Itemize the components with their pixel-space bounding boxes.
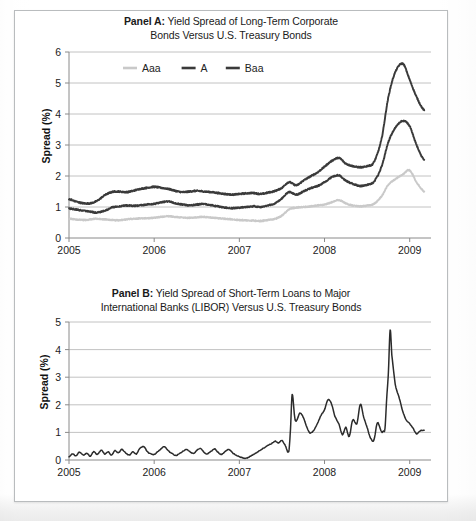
panel-a-title-line2: Bonds Versus U.S. Treasury Bonds <box>150 29 311 41</box>
svg-text:2006: 2006 <box>142 466 166 478</box>
svg-text:2: 2 <box>55 399 61 411</box>
panel-b-title-line2: International Banks (LIBOR) Versus U.S. … <box>101 301 362 313</box>
panel-a-title: Panel A: Yield Spread of Long-Term Corpo… <box>15 15 447 42</box>
panel-a-ylabel: Spread (%) <box>40 101 52 171</box>
svg-text:4: 4 <box>55 108 61 120</box>
panel-b-title: Panel B: Yield Spread of Short-Term Loan… <box>15 287 447 314</box>
panel-a-chart-svg: 012345620052006200720082009AaaABaa <box>15 42 447 264</box>
svg-text:2007: 2007 <box>228 466 252 478</box>
svg-text:0: 0 <box>55 454 61 466</box>
svg-text:1: 1 <box>55 426 61 438</box>
svg-text:0: 0 <box>55 232 61 244</box>
panel-a-plot-area: Spread (%) 012345620052006200720082009Aa… <box>15 42 447 264</box>
figure-root: Panel A: Yield Spread of Long-Term Corpo… <box>0 0 476 521</box>
panel-a: Panel A: Yield Spread of Long-Term Corpo… <box>15 15 447 283</box>
svg-text:4: 4 <box>55 344 61 356</box>
panel-b: Panel B: Yield Spread of Short-Term Loan… <box>15 287 447 497</box>
svg-text:3: 3 <box>55 371 61 383</box>
svg-text:5: 5 <box>55 77 61 89</box>
panel-b-title-lead: Panel B: <box>112 287 153 299</box>
svg-text:2008: 2008 <box>313 244 337 256</box>
svg-text:1: 1 <box>55 201 61 213</box>
figure-frame: Panel A: Yield Spread of Long-Term Corpo… <box>14 10 448 502</box>
panel-b-title-rest: Yield Spread of Short-Term Loans to Majo… <box>153 287 350 299</box>
legend-label-aaa: Aaa <box>142 62 161 74</box>
svg-text:2005: 2005 <box>57 244 81 256</box>
panel-a-title-lead: Panel A: <box>124 15 165 27</box>
svg-text:2: 2 <box>55 170 61 182</box>
svg-text:2006: 2006 <box>142 244 166 256</box>
chart-legend: AaaABaa <box>123 62 264 74</box>
legend-label-a: A <box>201 62 208 74</box>
svg-text:3: 3 <box>55 139 61 151</box>
svg-text:2007: 2007 <box>228 244 252 256</box>
svg-text:5: 5 <box>55 316 61 328</box>
legend-label-baa: Baa <box>245 62 264 74</box>
svg-text:6: 6 <box>55 46 61 58</box>
series-line-aaa <box>69 170 424 222</box>
svg-text:2009: 2009 <box>398 466 422 478</box>
panel-a-title-rest: Yield Spread of Long-Term Corporate <box>165 15 338 27</box>
panel-b-plot-area: Spread (%) 01234520052006200720082009 <box>15 314 447 486</box>
panel-b-ylabel: Spread (%) <box>38 347 50 417</box>
panel-b-chart-svg: 01234520052006200720082009 <box>15 314 447 486</box>
svg-text:2008: 2008 <box>313 466 337 478</box>
svg-text:2009: 2009 <box>398 244 422 256</box>
svg-text:2005: 2005 <box>57 466 81 478</box>
series-line-a <box>69 120 424 213</box>
